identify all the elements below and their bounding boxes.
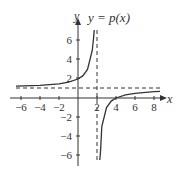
x-tick-label: 8	[151, 101, 157, 113]
curve-left-branch	[16, 30, 94, 86]
x-tick-label: 6	[132, 101, 138, 113]
chart: −6 −4 −2 2 4 6 8 6 4 2 −2 −4 −6 x y y = …	[0, 0, 176, 174]
y-tick-label: −4	[60, 130, 72, 142]
x-tick-label: −6	[15, 101, 27, 113]
x-tick-label: −4	[34, 101, 46, 113]
y-tick-label: 6	[67, 34, 73, 46]
y-axis-label: y	[73, 9, 80, 23]
x-tick-label: 4	[113, 101, 119, 113]
y-tick-label: −6	[60, 149, 72, 161]
x-axis-label: x	[166, 92, 173, 106]
y-tick-label: −2	[60, 111, 72, 123]
x-axis-arrow-icon	[160, 95, 167, 101]
chart-title: y = p(x)	[86, 10, 130, 25]
y-tick-label: 4	[67, 53, 73, 65]
